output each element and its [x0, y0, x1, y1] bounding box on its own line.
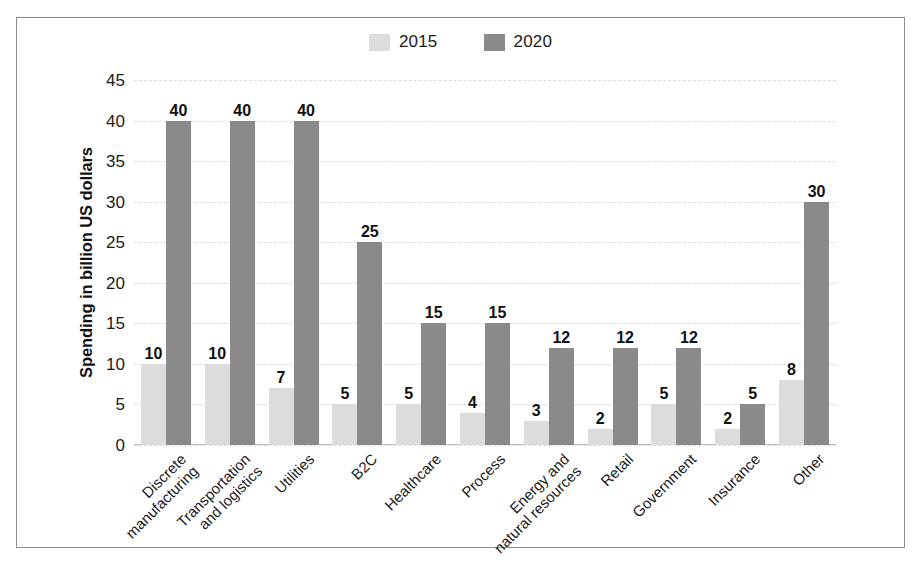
bar-value-label: 8	[787, 362, 796, 378]
y-tick-label: 0	[116, 436, 125, 456]
bar-group: 512	[645, 80, 709, 445]
x-tick-label: Process	[459, 451, 509, 501]
bar-rect[interactable]	[332, 404, 357, 445]
bar-rect[interactable]	[141, 364, 166, 445]
bar-group: 525	[325, 80, 389, 445]
bar-2020[interactable]: 40	[294, 121, 319, 445]
bar-rect[interactable]	[740, 404, 765, 445]
bar-2020[interactable]: 12	[549, 348, 574, 445]
bar-value-label: 5	[659, 386, 668, 402]
bar-rect[interactable]	[613, 348, 638, 445]
bar-value-label: 25	[361, 224, 379, 240]
bar-rect[interactable]	[460, 413, 485, 445]
bar-group: 1040	[134, 80, 198, 445]
bar-rect[interactable]	[524, 421, 549, 445]
legend-entry-2015: 2015	[369, 32, 438, 52]
y-tick-label: 10	[106, 355, 125, 375]
bar-rect[interactable]	[485, 323, 510, 445]
bar-rect[interactable]	[205, 364, 230, 445]
bar-group: 740	[262, 80, 326, 445]
x-axis-labels: DiscretemanufacturingTransportationand l…	[134, 445, 836, 549]
bar-group: 212	[581, 80, 645, 445]
bar-value-label: 3	[532, 403, 541, 419]
legend-entry-2020: 2020	[484, 32, 553, 52]
bar-2020[interactable]: 15	[485, 323, 510, 445]
bar-2015[interactable]: 5	[332, 404, 357, 445]
bar-2015[interactable]: 10	[205, 364, 230, 445]
bar-rect[interactable]	[421, 323, 446, 445]
bar-value-label: 4	[468, 395, 477, 411]
bar-value-label: 30	[808, 184, 826, 200]
bar-value-label: 2	[723, 411, 732, 427]
bar-2015[interactable]: 2	[588, 429, 613, 445]
y-tick-label: 35	[106, 152, 125, 172]
bar-2020[interactable]: 40	[166, 121, 191, 445]
bar-2020[interactable]: 25	[357, 242, 382, 445]
bar-value-label: 5	[404, 386, 413, 402]
bar-value-label: 15	[489, 305, 507, 321]
bar-value-label: 12	[616, 330, 634, 346]
y-tick-label: 15	[106, 314, 125, 334]
bar-value-label: 10	[145, 346, 163, 362]
bar-rect[interactable]	[779, 380, 804, 445]
bar-value-label: 40	[297, 103, 315, 119]
bar-2015[interactable]: 2	[715, 429, 740, 445]
y-tick-label: 5	[116, 395, 125, 415]
bar-value-label: 40	[170, 103, 188, 119]
bar-groups: 1040104074052551541531221251225830	[134, 80, 836, 445]
y-axis-title-text: Spending in billion US dollars	[77, 147, 96, 378]
bar-2015[interactable]: 5	[396, 404, 421, 445]
bar-group: 515	[389, 80, 453, 445]
bar-rect[interactable]	[804, 202, 829, 445]
bar-2020[interactable]: 12	[676, 348, 701, 445]
bar-value-label: 5	[748, 386, 757, 402]
bar-value-label: 12	[552, 330, 570, 346]
bar-2020[interactable]: 30	[804, 202, 829, 445]
y-tick-label: 25	[106, 233, 125, 253]
x-tick-label: Healthcare	[382, 451, 445, 514]
bar-2015[interactable]: 4	[460, 413, 485, 445]
bar-2015[interactable]: 3	[524, 421, 549, 445]
legend-swatch-2015	[369, 34, 390, 51]
bar-rect[interactable]	[676, 348, 701, 445]
bar-rect[interactable]	[166, 121, 191, 445]
bar-rect[interactable]	[396, 404, 421, 445]
legend-label-2015: 2015	[399, 32, 438, 52]
bar-rect[interactable]	[549, 348, 574, 445]
bar-2015[interactable]: 5	[651, 404, 676, 445]
bar-value-label: 7	[277, 370, 286, 386]
bar-rect[interactable]	[269, 388, 294, 445]
bar-group: 1040	[198, 80, 262, 445]
x-tick-label: B2C	[349, 451, 381, 483]
bar-value-label: 15	[425, 305, 443, 321]
y-axis-title: Spending in billion US dollars	[75, 80, 97, 445]
bar-2020[interactable]: 40	[230, 121, 255, 445]
bar-value-label: 5	[340, 386, 349, 402]
bar-2020[interactable]: 12	[613, 348, 638, 445]
bar-rect[interactable]	[715, 429, 740, 445]
bar-group: 312	[517, 80, 581, 445]
legend-label-2020: 2020	[514, 32, 553, 52]
bar-2015[interactable]: 8	[779, 380, 804, 445]
legend-swatch-2020	[484, 34, 505, 51]
bar-value-label: 40	[233, 103, 251, 119]
bar-value-label: 10	[208, 346, 226, 362]
x-tick-label: Retail	[598, 451, 637, 490]
bar-rect[interactable]	[357, 242, 382, 445]
bar-rect[interactable]	[230, 121, 255, 445]
bar-2015[interactable]: 7	[269, 388, 294, 445]
y-tick-label: 30	[106, 193, 125, 213]
y-tick-label: 20	[106, 274, 125, 294]
chart-legend: 2015 2020	[17, 32, 904, 52]
bar-rect[interactable]	[651, 404, 676, 445]
bar-rect[interactable]	[588, 429, 613, 445]
bar-value-label: 12	[680, 330, 698, 346]
bar-rect[interactable]	[294, 121, 319, 445]
x-tick-label: Other	[790, 451, 828, 489]
chart-frame: 2015 2020 Spending in billion US dollars…	[16, 17, 905, 548]
bar-2020[interactable]: 5	[740, 404, 765, 445]
bar-2020[interactable]: 15	[421, 323, 446, 445]
bar-2015[interactable]: 10	[141, 364, 166, 445]
x-tick-label: Insurance	[706, 451, 764, 509]
bar-group: 830	[772, 80, 836, 445]
